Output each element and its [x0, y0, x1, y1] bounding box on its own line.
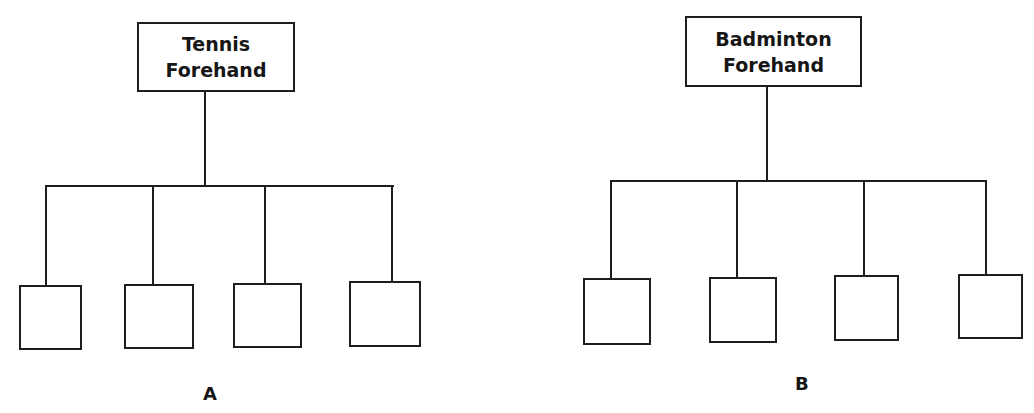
- diagram-a-child-box-4: [349, 281, 421, 347]
- diagram-a-label: A: [203, 384, 217, 404]
- diagram-b-child-connector-3: [863, 180, 865, 276]
- diagram-b-child-box-3: [834, 275, 899, 341]
- diagram-a-root-line1: Tennis: [182, 31, 250, 57]
- diagram-a-child-box-3: [233, 283, 302, 348]
- diagram-a-child-connector-1: [45, 186, 47, 286]
- diagram-a-root-line2: Forehand: [166, 57, 267, 83]
- diagram-a-child-box-1: [19, 285, 82, 350]
- diagram-b-branch-bar: [610, 180, 987, 182]
- diagram-b-child-box-4: [958, 274, 1023, 339]
- diagram-a-child-connector-2: [152, 186, 154, 285]
- diagram-b-child-connector-1: [610, 181, 612, 279]
- diagram-b-root-connector: [766, 87, 768, 182]
- diagram-a-root-box: Tennis Forehand: [137, 22, 295, 92]
- diagram-b-label: B: [795, 374, 809, 394]
- diagram-b-child-connector-4: [985, 180, 987, 275]
- diagram-a-root-connector: [204, 92, 206, 187]
- diagram-b-root-line2: Forehand: [723, 52, 824, 78]
- diagram-b-child-box-1: [583, 278, 651, 345]
- diagram-a-child-connector-4: [391, 186, 393, 282]
- diagram-a-child-connector-3: [264, 186, 266, 284]
- diagram-a-branch-bar: [45, 185, 394, 187]
- diagram-b-child-connector-2: [736, 181, 738, 278]
- diagram-b-root-line1: Badminton: [715, 26, 831, 52]
- diagram-b-child-box-2: [709, 277, 777, 343]
- diagram-a-child-box-2: [124, 284, 194, 349]
- diagram-canvas: Tennis Forehand A Badminton Forehand: [0, 0, 1034, 413]
- diagram-b-root-box: Badminton Forehand: [685, 16, 862, 87]
